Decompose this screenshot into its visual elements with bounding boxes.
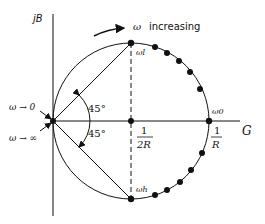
point-center: [128, 118, 134, 124]
svg-text:R: R: [211, 139, 220, 150]
omega-increasing-symbol: ω: [133, 21, 141, 32]
point-omega-l: [128, 40, 134, 46]
lower-arc-frequency-markers: [152, 150, 205, 198]
angle-label-upper: 45°: [88, 103, 106, 114]
svg-text:1: 1: [141, 125, 147, 136]
fraction-one-over-2R: 1 2R: [136, 125, 153, 150]
point-omega-0: [206, 118, 212, 124]
label-omega-l: ωl: [136, 48, 146, 57]
omega-increasing-text: increasing: [149, 21, 200, 32]
svg-text:2R: 2R: [136, 139, 151, 150]
point-omega-h: [128, 196, 134, 202]
angle-label-lower: 45°: [88, 128, 106, 139]
upper-arc-frequency-markers: [152, 44, 203, 92]
label-omega-h: ωh: [136, 185, 148, 194]
fraction-one-over-R: 1 R: [211, 125, 222, 150]
axis-label-G: G: [242, 124, 252, 138]
admittance-circle-diagram: jB G 45° 45° ω → 0 ω → ∞ ω increasing ωl…: [0, 0, 265, 224]
arrow-omega-to-zero: [40, 111, 51, 119]
svg-text:1: 1: [214, 125, 220, 136]
label-omega-0: ω0: [212, 107, 224, 116]
label-omega-to-zero: ω → 0: [9, 102, 36, 112]
omega-increasing-arrow: [94, 28, 124, 36]
arrow-omega-to-infinity: [40, 123, 51, 131]
label-omega-to-infinity: ω → ∞: [9, 133, 37, 143]
axis-label-jB: jB: [31, 13, 43, 24]
